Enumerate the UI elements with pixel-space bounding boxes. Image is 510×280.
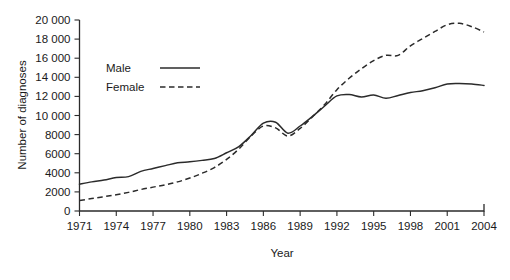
y-tick-label: 6000: [45, 148, 71, 160]
x-tick-label: 1992: [324, 220, 350, 232]
x-axis-ticks: [80, 211, 485, 216]
y-tick-label: 18 000: [35, 33, 70, 45]
y-tick-label: 8000: [45, 129, 71, 141]
x-tick-label: 1998: [398, 220, 424, 232]
y-tick-label: 4000: [45, 167, 71, 179]
legend-label-female: Female: [106, 81, 144, 93]
x-tick-label: 1980: [177, 220, 203, 232]
x-tick-label: 1983: [214, 220, 240, 232]
y-tick-label: 0: [64, 205, 70, 217]
y-tick-label: 16 000: [35, 52, 70, 64]
legend-label-male: Male: [106, 62, 131, 74]
x-tick-label: 1986: [251, 220, 277, 232]
x-tick-label: 2001: [434, 220, 460, 232]
x-tick-label: 1989: [287, 220, 313, 232]
series-line-female: [80, 23, 485, 200]
x-tick-label: 1974: [103, 220, 129, 232]
x-tick-label: 1995: [361, 220, 387, 232]
x-tick-label: 1971: [67, 220, 93, 232]
x-tick-label: 1977: [140, 220, 166, 232]
line-chart: 0200040006000800010 00012 00014 00016 00…: [0, 0, 510, 280]
axis-lines: [80, 20, 485, 211]
x-axis-title: Year: [270, 247, 293, 259]
y-axis-tick-labels: 0200040006000800010 00012 00014 00016 00…: [35, 14, 70, 217]
y-tick-label: 10 000: [35, 110, 70, 122]
y-tick-label: 2000: [45, 186, 71, 198]
y-axis-ticks: [75, 20, 80, 211]
chart-legend: Male Female: [106, 62, 200, 93]
y-axis-title: Number of diagnoses: [16, 60, 28, 170]
y-tick-label: 20 000: [35, 14, 70, 26]
y-tick-label: 14 000: [35, 71, 70, 83]
series-line-male: [80, 83, 485, 184]
chart-canvas: 0200040006000800010 00012 00014 00016 00…: [0, 0, 510, 280]
x-tick-label: 2004: [471, 220, 497, 232]
y-tick-label: 12 000: [35, 90, 70, 102]
x-axis-tick-labels: 1971197419771980198319861989199219951998…: [67, 220, 498, 232]
